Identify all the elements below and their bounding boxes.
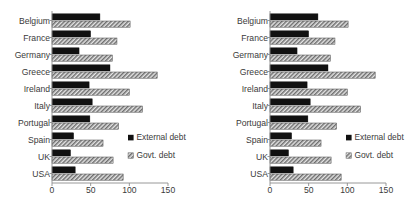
legend-left: External debtGovt. debt <box>128 132 186 160</box>
bar-govt-debt <box>270 157 331 163</box>
legend-label-external-debt: External debt <box>136 132 186 142</box>
category-label-portugal: Portugal <box>18 118 50 128</box>
legend-label-external-debt: External debt <box>354 132 404 142</box>
bar-govt-debt <box>52 174 123 180</box>
bar-external-debt <box>52 167 75 173</box>
bar-external-debt <box>270 133 292 139</box>
bar-external-debt <box>52 116 90 122</box>
bar-external-debt <box>52 48 79 54</box>
bar-external-debt <box>52 99 92 105</box>
category-label-belgium: Belgium <box>237 16 268 26</box>
bar-chart-left: BelgiumFranceGermanyGreeceIrelandItalyPo… <box>0 0 209 212</box>
bar-govt-debt <box>270 106 360 112</box>
bar-external-debt <box>270 31 309 37</box>
chart-left-svg: BelgiumFranceGermanyGreeceIrelandItalyPo… <box>0 0 209 212</box>
x-tick-label-50: 50 <box>86 185 96 195</box>
category-label-ireland: Ireland <box>242 84 268 94</box>
legend-swatch-govt-debt <box>128 153 134 159</box>
x-tick-label-100: 100 <box>340 185 355 195</box>
x-tick-label-150: 150 <box>161 185 176 195</box>
category-label-uk: UK <box>38 152 50 162</box>
x-tick-label-0: 0 <box>268 185 273 195</box>
bar-external-debt <box>270 82 307 88</box>
bar-govt-debt <box>270 55 330 61</box>
bar-external-debt <box>270 99 310 105</box>
bar-external-debt <box>270 167 293 173</box>
bar-external-debt <box>52 150 71 156</box>
bar-external-debt <box>270 116 308 122</box>
category-label-france: France <box>241 33 268 43</box>
bar-external-debt <box>52 133 74 139</box>
bar-external-debt <box>270 65 328 71</box>
bar-govt-debt <box>52 21 130 27</box>
category-label-belgium: Belgium <box>19 16 50 26</box>
bar-govt-debt <box>270 21 348 27</box>
bar-external-debt <box>52 82 89 88</box>
bar-govt-debt <box>52 123 119 129</box>
category-label-greece: Greece <box>240 67 268 77</box>
legend-label-govt-debt: Govt. debt <box>354 150 393 160</box>
legend-label-govt-debt: Govt. debt <box>136 150 175 160</box>
x-tick-label-0: 0 <box>50 185 55 195</box>
category-label-greece: Greece <box>22 67 50 77</box>
category-label-spain: Spain <box>28 135 50 145</box>
legend-right: External debtGovt. debt <box>346 132 404 160</box>
category-label-uk: UK <box>256 152 268 162</box>
category-label-usa: USA <box>32 169 50 179</box>
bar-govt-debt <box>52 140 103 146</box>
bar-govt-debt <box>52 72 157 78</box>
legend-swatch-govt-debt <box>346 153 352 159</box>
bar-external-debt <box>52 14 100 20</box>
bar-govt-debt <box>270 89 347 95</box>
figure-container: BelgiumFranceGermanyGreeceIrelandItalyPo… <box>0 0 418 212</box>
bar-govt-debt <box>52 157 113 163</box>
bar-govt-debt <box>52 38 117 44</box>
bar-govt-debt <box>270 174 341 180</box>
bar-external-debt <box>52 31 91 37</box>
bar-govt-debt <box>270 72 375 78</box>
bar-govt-debt <box>52 89 129 95</box>
bar-govt-debt <box>52 106 142 112</box>
legend-swatch-external-debt <box>128 135 134 141</box>
x-tick-label-100: 100 <box>122 185 137 195</box>
category-label-ireland: Ireland <box>24 84 50 94</box>
x-tick-label-50: 50 <box>304 185 314 195</box>
category-label-portugal: Portugal <box>236 118 268 128</box>
bar-govt-debt <box>270 123 337 129</box>
category-label-italy: Italy <box>252 101 268 111</box>
chart-right-svg: BelgiumFranceGermanyGreeceIrelandItalyPo… <box>209 0 418 212</box>
category-labels-right: BelgiumFranceGermanyGreeceIrelandItalyPo… <box>233 16 269 179</box>
category-label-italy: Italy <box>34 101 50 111</box>
category-label-usa: USA <box>250 169 268 179</box>
bar-external-debt <box>270 48 297 54</box>
bar-external-debt <box>270 150 289 156</box>
category-label-germany: Germany <box>233 50 269 60</box>
bar-external-debt <box>52 65 110 71</box>
category-label-france: France <box>23 33 50 43</box>
bar-external-debt <box>270 14 318 20</box>
bar-govt-debt <box>52 55 112 61</box>
bar-chart-right: BelgiumFranceGermanyGreeceIrelandItalyPo… <box>209 0 418 212</box>
bar-govt-debt <box>270 38 335 44</box>
legend-swatch-external-debt <box>346 135 352 141</box>
category-labels-left: BelgiumFranceGermanyGreeceIrelandItalyPo… <box>15 16 51 179</box>
category-label-spain: Spain <box>246 135 268 145</box>
category-label-germany: Germany <box>15 50 51 60</box>
x-tick-label-150: 150 <box>379 185 394 195</box>
bar-govt-debt <box>270 140 321 146</box>
